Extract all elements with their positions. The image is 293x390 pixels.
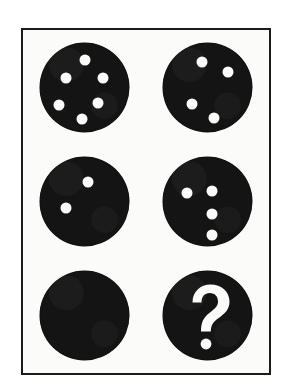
- disc-six-dots[interactable]: 6: [40, 43, 129, 132]
- disc-3-dot-count: 2: [40, 157, 41, 158]
- dot: [197, 57, 208, 68]
- grid-cell-middle-right: 4: [146, 144, 269, 258]
- dot: [187, 99, 198, 110]
- dot: [92, 98, 103, 109]
- question-mark-icon: [180, 282, 236, 350]
- disc-four-dots-column[interactable]: 4: [163, 157, 252, 246]
- disc-blank[interactable]: 0: [40, 271, 129, 360]
- dot: [83, 176, 94, 187]
- grid-cell-top-left: 6: [23, 30, 146, 144]
- dot: [208, 113, 219, 124]
- puzzle-root: Dotted Disc Matrix Puzzle 6 4: [0, 0, 293, 390]
- dot: [206, 208, 217, 219]
- dot: [182, 188, 193, 199]
- dot: [206, 230, 217, 241]
- puzzle-card-frame: Dotted Disc Matrix Puzzle 6 4: [21, 28, 271, 375]
- dot: [222, 67, 233, 78]
- dot: [53, 99, 64, 110]
- grid-cell-middle-left: 2: [23, 144, 146, 258]
- question-mark-label: ?: [163, 271, 164, 272]
- disc-grid: 6 4: [23, 30, 269, 373]
- dot: [76, 114, 87, 125]
- grid-cell-top-right: 4: [146, 30, 269, 144]
- disc-1-dot-count: 6: [40, 43, 41, 44]
- disc-4-dot-count: 4: [163, 157, 164, 158]
- dot: [79, 55, 90, 66]
- disc-two-dots[interactable]: 2: [40, 157, 129, 246]
- dot: [98, 73, 109, 84]
- disc-2-dot-count: 4: [163, 43, 164, 44]
- dot: [60, 202, 71, 213]
- dot: [60, 73, 71, 84]
- dot: [206, 185, 217, 196]
- disc-question-mark[interactable]: ?: [163, 271, 252, 360]
- disc-5-dot-count: 0: [40, 271, 41, 272]
- grid-cell-bottom-left: 0: [23, 259, 146, 373]
- grid-cell-bottom-right: ?: [146, 259, 269, 373]
- disc-four-dots-arc[interactable]: 4: [163, 43, 252, 132]
